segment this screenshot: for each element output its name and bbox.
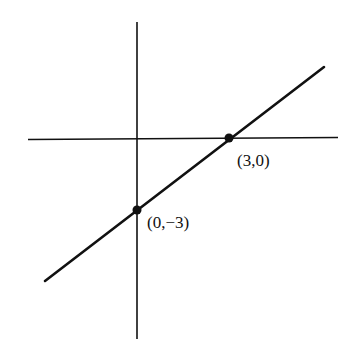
coordinate-plot: (3,0) (0,−3): [0, 0, 354, 354]
label-y-intercept: (0,−3): [147, 213, 189, 232]
point-y-intercept: [133, 206, 142, 215]
label-x-intercept: (3,0): [237, 151, 270, 170]
x-axis: [28, 138, 338, 140]
point-x-intercept: [225, 134, 234, 143]
graph-line: [45, 67, 324, 281]
